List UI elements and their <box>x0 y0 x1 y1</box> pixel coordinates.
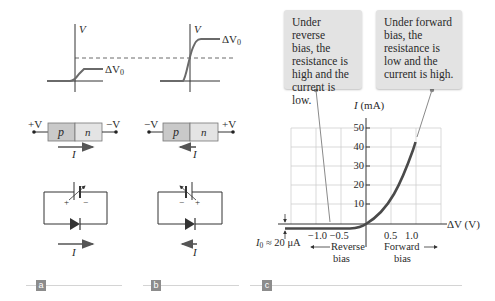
reverse-callout-pointer <box>316 90 330 222</box>
svg-text:+: + <box>195 197 200 207</box>
panel-a-rule-left <box>26 285 36 286</box>
panel-b-potential-graph: V ΔV0 <box>160 23 241 92</box>
panel-a-circuit: + − I <box>44 182 107 258</box>
diode-icon <box>185 218 195 230</box>
diode-icon <box>70 218 80 230</box>
reverse-bias-callout: Under reverse bias, the resistance is hi… <box>284 10 362 89</box>
svg-text:I: I <box>192 246 198 258</box>
panel-a-tag: a <box>36 280 46 291</box>
delta-v0-label: ΔV0 <box>105 63 124 77</box>
svg-text:I: I <box>71 246 77 258</box>
v-axis-label: V <box>194 23 202 35</box>
panel-b-pn-junction: p n −V +V I <box>144 118 236 160</box>
y-tick: 20 <box>354 179 365 190</box>
svg-text:n: n <box>201 126 207 138</box>
svg-text:−: − <box>83 197 88 207</box>
y-tick: 40 <box>354 141 365 152</box>
x-axis-label: ΔV (V) <box>447 218 480 231</box>
panel-a-potential-graph: V ΔV0 <box>47 23 124 92</box>
panel-b-tag: b <box>151 280 161 291</box>
panel-b-rule-left <box>143 285 151 286</box>
x-tick-negative: −1.0 −0.5 <box>308 230 349 241</box>
right-terminal-label: −V <box>106 118 120 130</box>
y-axis-label: I (mA) <box>353 99 385 112</box>
reverse-label: Reverse <box>331 241 365 252</box>
left-terminal-label: +V <box>28 118 42 130</box>
reverse-bias-word: bias <box>333 253 350 264</box>
y-tick: 30 <box>354 160 365 171</box>
left-terminal-label: −V <box>144 118 158 130</box>
panel-c-rule <box>272 285 462 286</box>
forward-callout-pointer <box>417 90 432 137</box>
saturation-current-label: I0 ≈ 20 μA <box>255 237 301 250</box>
forward-bias-word: bias <box>394 253 411 264</box>
right-terminal-label: +V <box>222 118 236 130</box>
panel-a-rule <box>46 285 122 286</box>
y-tick: 10 <box>354 198 365 209</box>
panel-a-pn-junction: p n +V −V I <box>28 118 120 160</box>
panel-c-rule-left <box>250 285 262 286</box>
svg-text:−: − <box>179 197 184 207</box>
v-axis-label: V <box>79 23 87 35</box>
x-tick-positive: 0.5 1.0 <box>384 230 418 241</box>
delta-v0-label: ΔV0 <box>222 33 241 47</box>
svg-text:p: p <box>172 125 179 139</box>
forward-bias-callout: Under forward bias, the resistance is lo… <box>376 10 462 89</box>
svg-text:n: n <box>85 126 91 138</box>
svg-text:I: I <box>192 148 198 160</box>
panel-b-rule <box>161 285 239 286</box>
iv-chart: 10 20 30 40 50 I (mA) ΔV (V) −1.0 −0.5 0… <box>255 88 480 264</box>
svg-text:I: I <box>71 148 77 160</box>
panel-b-circuit: − + I <box>158 182 222 258</box>
forward-label: Forward <box>384 241 420 252</box>
panel-c-tag: c <box>262 280 272 291</box>
svg-text:p: p <box>57 125 64 139</box>
svg-text:+: + <box>64 197 69 207</box>
y-tick: 50 <box>354 122 365 133</box>
